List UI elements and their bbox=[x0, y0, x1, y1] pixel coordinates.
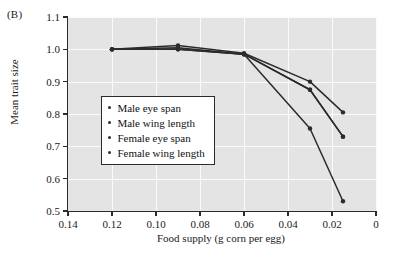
y-tick-label: 0.5 bbox=[46, 205, 60, 217]
data-point bbox=[341, 110, 345, 114]
legend-item: Female eye span bbox=[108, 130, 205, 145]
x-tick-label: 0.08 bbox=[190, 218, 209, 230]
y-tick-label: 0.7 bbox=[46, 140, 60, 152]
y-tick-label: 1.0 bbox=[46, 43, 60, 55]
gridline-vertical bbox=[376, 17, 377, 211]
legend-marker-icon bbox=[108, 136, 111, 139]
y-tick-label: 0.6 bbox=[46, 173, 60, 185]
data-point bbox=[176, 43, 180, 47]
data-point bbox=[341, 134, 345, 138]
x-tick-mark bbox=[243, 211, 244, 216]
data-point bbox=[242, 52, 246, 56]
x-tick-label: 0.12 bbox=[102, 218, 121, 230]
data-point bbox=[110, 47, 114, 51]
data-point bbox=[308, 88, 312, 92]
x-tick-mark bbox=[375, 211, 376, 216]
y-tick-label: 1.1 bbox=[46, 11, 60, 23]
legend-label: Female eye span bbox=[117, 132, 190, 144]
x-tick-label: 0.14 bbox=[58, 218, 77, 230]
y-tick-label: 0.9 bbox=[46, 76, 60, 88]
panel-label: (B) bbox=[7, 8, 22, 20]
legend-item: Male eye span bbox=[108, 100, 205, 115]
data-point bbox=[176, 47, 180, 51]
y-axis-label: Mean trait size bbox=[8, 52, 20, 132]
legend-label: Male wing length bbox=[117, 117, 195, 129]
y-tick-label: 0.8 bbox=[46, 108, 60, 120]
x-tick-mark bbox=[111, 211, 112, 216]
legend-marker-icon bbox=[108, 151, 111, 154]
legend: Male eye spanMale wing lengthFemale eye … bbox=[101, 96, 215, 165]
legend-item: Male wing length bbox=[108, 115, 205, 130]
x-tick-mark bbox=[287, 211, 288, 216]
x-tick-mark bbox=[199, 211, 200, 216]
x-tick-label: 0.10 bbox=[146, 218, 165, 230]
plot-area: 0.50.60.70.80.91.01.1 0.140.120.100.080.… bbox=[67, 17, 376, 212]
x-tick-label: 0.04 bbox=[278, 218, 297, 230]
data-point bbox=[308, 126, 312, 130]
x-tick-mark bbox=[67, 211, 68, 216]
x-axis-label: Food supply (g corn per egg) bbox=[67, 232, 375, 244]
legend-marker-icon bbox=[108, 106, 111, 109]
data-point bbox=[341, 199, 345, 203]
x-tick-mark bbox=[331, 211, 332, 216]
legend-label: Male eye span bbox=[117, 102, 181, 114]
data-point bbox=[308, 79, 312, 83]
legend-label: Female wing length bbox=[117, 147, 204, 159]
x-tick-label: 0.06 bbox=[234, 218, 253, 230]
x-tick-label: 0 bbox=[373, 218, 379, 230]
legend-item: Female wing length bbox=[108, 145, 205, 160]
legend-marker-icon bbox=[108, 121, 111, 124]
chart-figure: (B) Mean trait size 0.50.60.70.80.91.01.… bbox=[0, 0, 398, 256]
x-tick-mark bbox=[155, 211, 156, 216]
x-tick-label: 0.02 bbox=[322, 218, 341, 230]
